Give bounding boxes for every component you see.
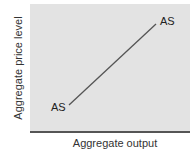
- x-axis-label: Aggregate output: [30, 137, 194, 149]
- as-curve-label-end: AS: [160, 15, 175, 27]
- y-axis-label: Aggregate price level: [12, 8, 24, 128]
- as-curve-label-start: AS: [51, 101, 66, 113]
